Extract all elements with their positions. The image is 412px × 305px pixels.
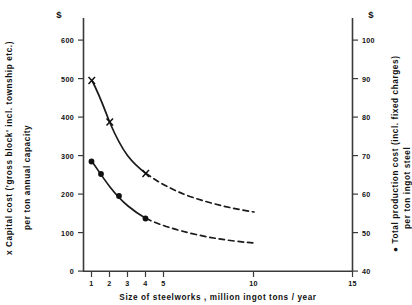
left-ytick-label-600: 600 [61,36,74,45]
left-ytick-label-300: 300 [61,152,74,161]
left-axis-title-line2: per ton annual capacity [23,125,32,230]
xtick-label-15: 15 [348,279,357,288]
right-axis-ticks: 100 90 80 70 60 50 40 [353,36,375,276]
x-axis-ticks: 1 2 3 4 5 10 15 [89,271,356,288]
production-cost-marker-dot-1 [89,159,95,165]
left-ytick-label-400: 400 [61,113,74,122]
xtick-label-4: 4 [143,279,147,288]
production-cost-solid-curve [92,162,146,219]
right-axis-currency-symbol: $ [368,9,374,20]
production-cost-marker-dot-2-5 [116,193,122,199]
right-ytick-label-60: 60 [362,190,371,199]
axes-frame [83,18,353,272]
production-cost-marker-dot-1-5 [98,171,104,177]
left-ytick-label-100: 100 [61,229,74,238]
x-axis-title: Size of steelworks , million ingot tons … [119,293,317,302]
capital-cost-marker-x-1 [89,77,96,84]
right-axis-title-line2: per ton ingot steel [403,147,412,229]
production-cost-dashed-curve [146,219,254,244]
left-ytick-label-500: 500 [61,75,74,84]
right-ytick-label-70: 70 [362,152,371,161]
chart-svg: $ $ 600 500 400 300 200 100 0 [0,0,412,305]
capital-cost-marker-x-4 [143,170,150,177]
chart-figure: $ $ 600 500 400 300 200 100 0 [0,0,412,305]
xtick-label-10: 10 [249,279,258,288]
right-ytick-label-40: 40 [362,267,371,276]
left-axis-ticks: 600 500 400 300 200 100 0 [61,36,83,276]
right-axis-title-line1: ● Total production cost (incl. fixed cha… [391,56,400,252]
series-production-cost [89,159,254,243]
left-ytick-label-0: 0 [70,267,74,276]
capital-cost-dashed-curve [146,174,254,213]
xtick-label-2: 2 [107,279,111,288]
production-cost-marker-dot-4 [143,216,149,222]
left-axis-title-line1: x Capital cost ('gross block' incl. town… [5,41,14,255]
xtick-label-5: 5 [161,279,165,288]
left-axis-currency-symbol: $ [56,9,62,20]
right-ytick-label-100: 100 [362,36,375,45]
capital-cost-solid-curve [92,81,146,174]
xtick-label-1: 1 [89,279,93,288]
right-ytick-label-90: 90 [362,75,371,84]
left-ytick-label-200: 200 [61,190,74,199]
xtick-label-3: 3 [125,279,129,288]
right-ytick-label-50: 50 [362,229,371,238]
right-ytick-label-80: 80 [362,113,371,122]
